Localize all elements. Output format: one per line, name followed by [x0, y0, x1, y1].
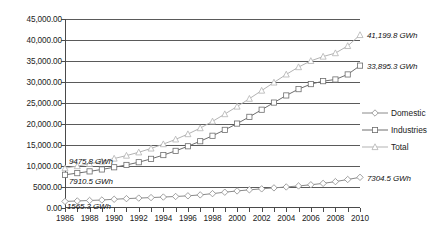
x-axis-tick: [262, 208, 263, 212]
data-point-marker: [259, 107, 264, 112]
data-label-total-start: 9475.8 GWh: [69, 157, 113, 166]
data-point-marker: [209, 190, 215, 196]
data-point-marker: [198, 139, 203, 144]
x-axis-tick: [249, 208, 250, 212]
data-point-marker: [357, 174, 363, 180]
data-point-marker: [185, 193, 191, 199]
data-point-marker: [345, 176, 351, 182]
x-axis-tick: [323, 208, 324, 212]
legend-item-total[interactable]: Total: [362, 140, 409, 154]
x-axis-tick: [311, 208, 312, 212]
x-axis-tick-label: 1992: [130, 214, 148, 223]
data-point-marker: [173, 148, 178, 153]
y-axis-tick-label: 40,000.00: [26, 36, 62, 45]
series-total: [62, 32, 363, 171]
data-point-marker: [222, 127, 227, 132]
data-point-marker: [197, 125, 203, 131]
x-axis-tick: [274, 208, 275, 212]
y-axis-tick-label: 15,000.00: [26, 141, 62, 150]
x-axis-tick: [114, 208, 115, 212]
x-axis-tick: [299, 208, 300, 212]
legend-item-domestic[interactable]: Domestic: [362, 106, 426, 120]
diamond-icon: [362, 107, 388, 119]
y-axis-tick-label: 0.00: [46, 204, 62, 213]
data-point-marker: [345, 72, 350, 77]
data-point-marker: [283, 71, 289, 77]
data-point-marker: [271, 100, 276, 105]
x-axis-tick: [286, 208, 287, 212]
x-axis-tick-label: 1988: [81, 214, 99, 223]
data-point-marker: [123, 195, 129, 201]
data-point-marker: [295, 183, 301, 189]
data-point-marker: [210, 133, 215, 138]
data-point-marker: [222, 111, 228, 117]
data-point-marker: [333, 77, 338, 82]
x-axis-tick: [225, 208, 226, 212]
data-point-marker: [148, 156, 153, 161]
data-point-marker: [185, 144, 190, 149]
x-axis-tick: [65, 208, 66, 212]
x-axis-tick: [360, 208, 361, 212]
data-label-domestic-start: 1565.3 GWh: [67, 202, 111, 211]
x-axis-tick-label: 1994: [154, 214, 172, 223]
data-point-marker: [234, 121, 239, 126]
data-point-marker: [259, 87, 265, 93]
data-point-marker: [258, 186, 264, 192]
data-point-marker: [160, 194, 166, 200]
y-axis-tick-label: 30,000.00: [26, 78, 62, 87]
x-axis-tick-labels: 1986198819901992199419961998200020022004…: [0, 214, 431, 228]
data-point-marker: [283, 184, 289, 190]
data-point-marker: [136, 160, 141, 165]
x-axis-tick: [151, 208, 152, 212]
legend-item-industries[interactable]: Industries: [362, 123, 427, 137]
data-point-marker: [308, 82, 313, 87]
y-axis-tick-label: 10,000.00: [26, 162, 62, 171]
legend-label: Domestic: [391, 108, 426, 118]
x-axis-tick-label: 2004: [277, 214, 295, 223]
x-axis-tick: [139, 208, 140, 212]
x-axis-tick: [237, 208, 238, 212]
data-point-marker: [332, 178, 338, 184]
y-axis-tick-label: 20,000.00: [26, 120, 62, 129]
y-axis-tick-labels: 0.005000.0010,000.0015,000.0020,000.0025…: [0, 0, 62, 241]
x-axis-tick-label: 2002: [253, 214, 271, 223]
data-point-marker: [62, 172, 67, 177]
data-point-marker: [296, 87, 301, 92]
data-point-marker: [234, 103, 240, 109]
legend-label: Industries: [391, 125, 427, 135]
data-point-marker: [308, 182, 314, 188]
data-point-marker: [320, 180, 326, 186]
data-point-marker: [197, 192, 203, 198]
data-point-marker: [284, 93, 289, 98]
line-chart: 0.005000.0010,000.0015,000.0020,000.0025…: [0, 0, 431, 241]
data-point-marker: [296, 64, 302, 70]
y-axis-tick-label: 45,000.00: [26, 15, 62, 24]
data-point-marker: [185, 131, 191, 137]
triangle-icon: [362, 141, 388, 153]
chart-legend: DomesticIndustriesTotal: [362, 106, 431, 158]
data-point-marker: [161, 152, 166, 157]
data-point-marker: [247, 114, 252, 119]
data-label-industries-end: 33,895.3 GWh: [367, 62, 417, 71]
y-axis-tick-label: 5000.00: [33, 183, 62, 192]
x-axis-tick-label: 1996: [179, 214, 197, 223]
data-point-marker: [210, 118, 216, 124]
y-axis-tick-label: 25,000.00: [26, 99, 62, 108]
x-axis-tick-label: 1986: [56, 214, 74, 223]
data-point-marker: [172, 193, 178, 199]
data-point-marker: [271, 79, 277, 85]
data-label-industries-start: 7910.5 GWh: [69, 177, 113, 186]
x-axis-tick: [200, 208, 201, 212]
x-axis-tick: [188, 208, 189, 212]
x-axis-tick: [126, 208, 127, 212]
data-point-marker: [148, 194, 154, 200]
x-axis-tick: [335, 208, 336, 212]
series-line: [65, 35, 360, 168]
data-point-marker: [222, 189, 228, 195]
x-axis-tick: [163, 208, 164, 212]
x-axis-tick-label: 1998: [204, 214, 222, 223]
data-point-marker: [136, 195, 142, 201]
data-point-marker: [173, 136, 179, 142]
data-point-marker: [111, 196, 117, 202]
x-axis-tick-label: 2006: [302, 214, 320, 223]
